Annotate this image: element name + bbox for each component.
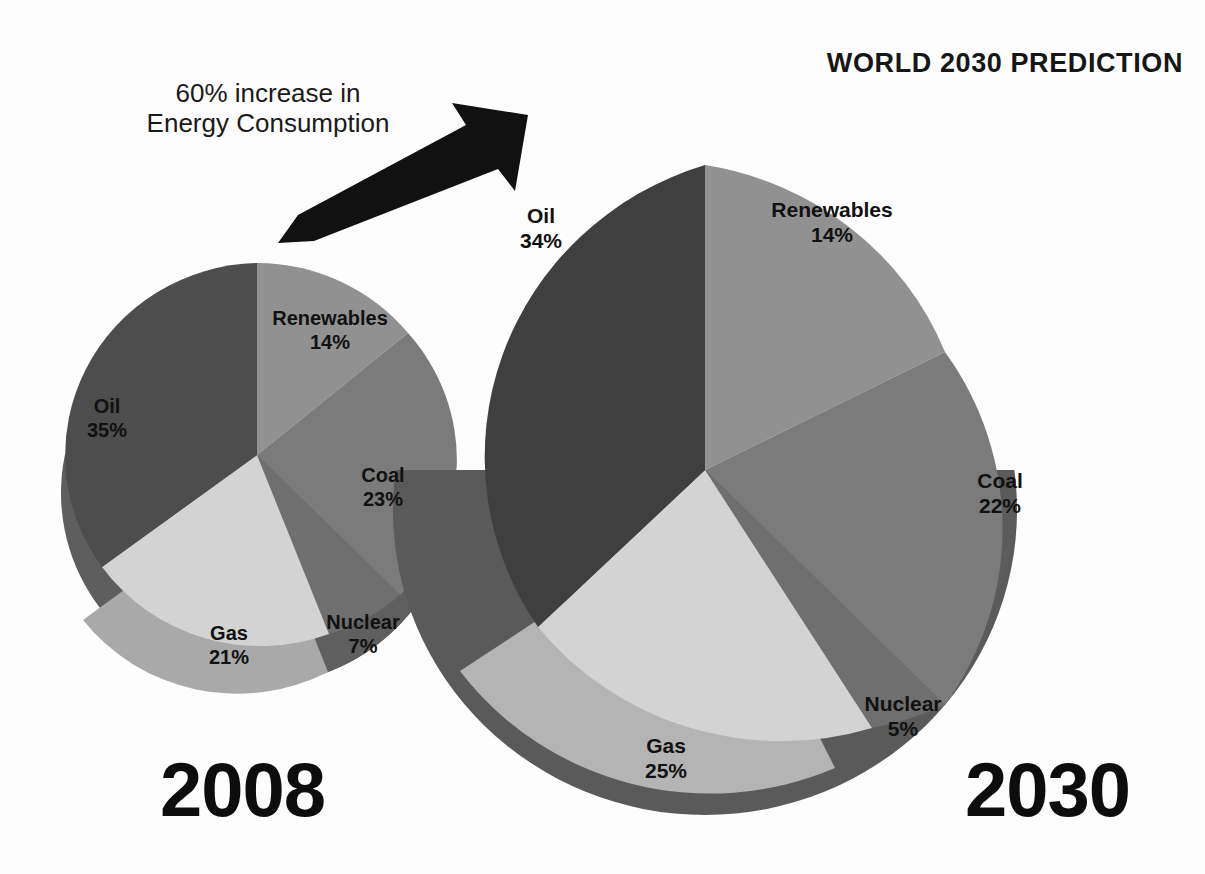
- slice-percent: 5%: [864, 716, 941, 741]
- slice-percent: 22%: [977, 493, 1023, 518]
- slice-label-2030-gas: Gas 25%: [645, 733, 687, 783]
- year-label-2008: 2008: [160, 752, 325, 828]
- slice-percent: 21%: [209, 645, 249, 669]
- slice-name: Oil: [87, 394, 127, 418]
- energy-forecast-infographic: WORLD 2030 PREDICTION 60% increase in En…: [0, 0, 1205, 874]
- slice-percent: 23%: [361, 487, 404, 511]
- slice-label-2030-renewables: Renewables 14%: [771, 197, 892, 247]
- slice-label-2030-coal: Coal 22%: [977, 468, 1023, 518]
- slice-name: Renewables: [771, 197, 892, 222]
- slice-label-2008-oil: Oil 35%: [87, 394, 127, 442]
- slice-name: Nuclear: [326, 610, 399, 634]
- slice-label-2008-nuclear: Nuclear 7%: [326, 610, 399, 658]
- growth-annotation: 60% increase in Energy Consumption: [128, 78, 408, 139]
- slice-label-2008-renewables: Renewables 14%: [272, 306, 388, 354]
- slice-label-2008-gas: Gas 21%: [209, 621, 249, 669]
- slice-name: Gas: [209, 621, 249, 645]
- slice-label-2030-oil: Oil 34%: [520, 203, 562, 253]
- slice-label-2030-nuclear: Nuclear 5%: [864, 691, 941, 741]
- slice-name: Renewables: [272, 306, 388, 330]
- slice-percent: 35%: [87, 418, 127, 442]
- slice-name: Coal: [977, 468, 1023, 493]
- slice-percent: 14%: [272, 330, 388, 354]
- slice-label-2008-coal: Coal 23%: [361, 463, 404, 511]
- pie-2008-top: [65, 263, 457, 646]
- slice-percent: 34%: [520, 228, 562, 253]
- slice-name: Nuclear: [864, 691, 941, 716]
- slice-percent: 7%: [326, 634, 399, 658]
- annotation-line-1: 60% increase in: [128, 78, 408, 108]
- slice-name: Coal: [361, 463, 404, 487]
- page-title: WORLD 2030 PREDICTION: [827, 48, 1183, 79]
- slice-percent: 14%: [771, 222, 892, 247]
- slice-name: Oil: [520, 203, 562, 228]
- slice-percent: 25%: [645, 758, 687, 783]
- annotation-line-2: Energy Consumption: [128, 108, 408, 138]
- slice-name: Gas: [645, 733, 687, 758]
- year-label-2030: 2030: [965, 752, 1130, 828]
